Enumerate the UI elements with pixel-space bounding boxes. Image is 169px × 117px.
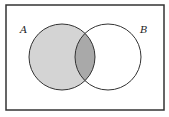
venn-diagram: A B xyxy=(0,0,169,117)
set-a-label: A xyxy=(19,24,27,35)
set-b-label: B xyxy=(139,24,147,35)
